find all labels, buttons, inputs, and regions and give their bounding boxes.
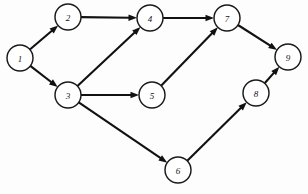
graph-node-9[interactable]: 9	[275, 44, 301, 70]
graph-node-3[interactable]: 3	[55, 82, 81, 108]
edge-line	[77, 31, 135, 86]
edge-line	[265, 72, 275, 84]
node-label: 8	[254, 89, 259, 99]
graph-node-1[interactable]: 1	[7, 45, 33, 71]
graph-node-5[interactable]: 5	[139, 82, 165, 108]
edge-4-to-7	[163, 15, 214, 21]
edge-3-to-5	[81, 92, 139, 98]
edge-line	[30, 30, 53, 50]
node-label: 9	[286, 53, 291, 63]
edge-3-to-4	[77, 27, 140, 86]
edge-line	[79, 102, 162, 159]
graph-node-2[interactable]: 2	[55, 4, 81, 30]
edge-1-to-3	[30, 66, 57, 87]
graph-node-4[interactable]: 4	[137, 5, 163, 31]
arrow-head-icon	[128, 15, 137, 21]
graph-node-8[interactable]: 8	[243, 80, 269, 106]
edge-line	[161, 32, 213, 86]
node-label: 7	[225, 14, 230, 24]
edge-8-to-9	[265, 67, 280, 84]
graph-canvas: 123456789	[0, 0, 308, 194]
edge-line	[81, 17, 130, 18]
node-label: 3	[65, 91, 71, 101]
edge-line	[187, 107, 242, 161]
edge-2-to-4	[81, 15, 137, 21]
arrow-head-icon	[268, 43, 277, 50]
edge-7-to-9	[238, 25, 277, 50]
edge-line	[30, 66, 52, 83]
arrow-head-icon	[131, 92, 140, 98]
graph-svg: 123456789	[0, 0, 308, 194]
node-label: 1	[18, 54, 23, 64]
edge-1-to-2	[30, 25, 58, 49]
graph-node-7[interactable]: 7	[214, 5, 240, 31]
edge-line	[238, 25, 272, 46]
node-label: 4	[148, 14, 153, 24]
node-label: 5	[150, 91, 155, 101]
graph-node-6[interactable]: 6	[165, 157, 191, 183]
edge-5-to-7	[161, 27, 218, 85]
arrow-head-icon	[206, 15, 215, 21]
node-label: 6	[176, 166, 181, 176]
node-label: 2	[66, 13, 71, 23]
edge-6-to-8	[187, 102, 247, 161]
edge-3-to-6	[79, 102, 168, 162]
